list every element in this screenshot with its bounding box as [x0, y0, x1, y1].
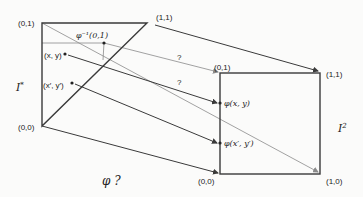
mapping-arrow-xpyp-to-phixpyp [75, 84, 217, 143]
label-left-00: (0,0) [18, 123, 35, 132]
mapping-diagram: (0,1) (1,1) (0,0) (x, y) (x′, y′) φ⁻¹(0,… [0, 0, 363, 197]
question-mark-1: ? [177, 53, 182, 62]
label-phi-xy: φ(x, y) [224, 99, 250, 108]
label-right-10: (1,0) [326, 177, 343, 186]
mapping-arrow-11-to-11 [155, 25, 318, 71]
label-right-00: (0,0) [198, 177, 215, 186]
question-mark-2: ? [177, 78, 182, 87]
point-xy [63, 52, 66, 55]
point-phi-xy [218, 101, 221, 104]
phi-inv-drop-line [103, 43, 104, 60]
label-right-11: (1,1) [326, 70, 343, 79]
label-right-01: (0,1) [214, 63, 231, 72]
label-I2: I2 [337, 122, 347, 135]
mapping-line-01-to-10 [42, 23, 318, 172]
label-xy: (x, y) [44, 51, 62, 60]
square-I2 [220, 73, 320, 174]
label-xpyp: (x′, y′) [43, 81, 64, 90]
label-phi-inv-01: φ⁻¹(0,1) [76, 31, 108, 40]
point-xpyp [70, 81, 73, 84]
label-left-01: (0,1) [18, 19, 35, 28]
point-phi-xpyp [218, 141, 221, 144]
mapping-line-phiinv-to-01 [42, 43, 218, 72]
label-left-11: (1,1) [156, 13, 173, 22]
mapping-arrow-00-to-00 [42, 126, 218, 173]
diagram-canvas: (0,1) (1,1) (0,0) (x, y) (x′, y′) φ⁻¹(0,… [0, 0, 363, 197]
label-I-star: I* [15, 81, 24, 94]
label-phi-xpyp: φ(x′, y′) [224, 139, 254, 148]
phi-question-title: φ ? [102, 174, 121, 188]
point-phi-inv-01 [102, 41, 105, 44]
